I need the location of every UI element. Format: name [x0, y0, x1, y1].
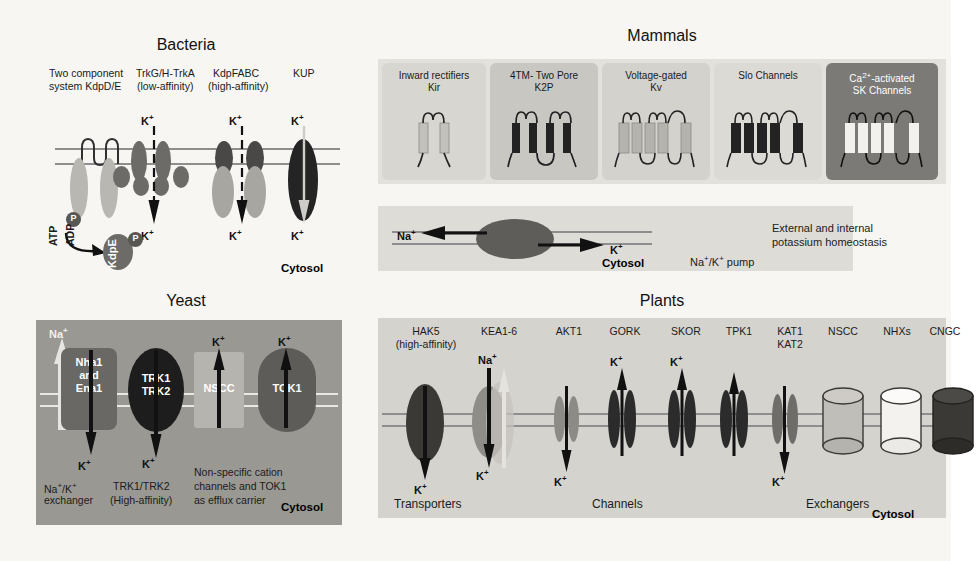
label-trk-1: TrkG/H-TrkA [136, 67, 195, 80]
mammal-box-inward-rectifiers[interactable]: Inward rectifiersKir [382, 63, 486, 180]
mammal-box-slo-channels[interactable]: Slo Channels [714, 63, 822, 180]
plant-header-kat: KAT1KAT2 [764, 325, 816, 350]
mammal-box-voltage-gated[interactable]: Voltage-gatedKv [602, 63, 710, 180]
plant-header-nscc: NSCC [816, 325, 870, 338]
caption-trk-1: TRK1/TRK2 [113, 480, 170, 493]
arrow-k-influx-kup [298, 126, 310, 226]
panel-mammals: Mammals Inward rectifiersKir 4TM- Two Po… [372, 0, 951, 290]
ion-k-tok1: K+ [278, 334, 291, 348]
label-homeostasis-2: potassium homeostasis [772, 236, 887, 249]
plant-header-kea: KEA1-6 [464, 325, 534, 338]
trka-subunit-a [113, 166, 130, 188]
label-two-component-1: Two component [49, 67, 123, 80]
label-na-k-pump: Na+/K+ pump [690, 254, 754, 268]
arrow-k-efflux-tpk1 [728, 372, 740, 456]
ion-na-pump: Na+ [397, 228, 416, 242]
arrow-k-influx-hak5 [419, 386, 431, 480]
arrow-na-efflux-kea [498, 368, 510, 468]
plant-protein-cngc [928, 386, 978, 458]
plant-protein-nhxs [876, 386, 926, 458]
kir-topology-icon [410, 107, 460, 169]
plant-header-skor: SKOR [658, 325, 714, 338]
ion-k-top-1: K+ [141, 113, 154, 127]
page-title-bacteria: Bacteria [86, 36, 286, 54]
label-kdp-1: KdpFABC [213, 67, 259, 80]
page-title-plants: Plants [562, 292, 762, 310]
arrow-k-influx-trk [148, 126, 160, 226]
mammal-box-label-kv: Voltage-gatedKv [602, 70, 710, 94]
caption-exchanger-1: Na+/K+ [44, 480, 77, 495]
label-two-component-2: system KdpD/E [49, 80, 121, 93]
arrow-k-influx-pump [538, 238, 604, 252]
page-title-yeast: Yeast [86, 292, 286, 310]
ion-k-top-2: K+ [229, 113, 242, 127]
plant-header-cngc: CNGC [918, 325, 972, 338]
ion-k-akt1: K+ [554, 474, 567, 488]
kdpfabc-cyto-1 [212, 166, 234, 218]
plant-group-transporters: Transporters [394, 498, 462, 511]
page-title-mammals: Mammals [562, 27, 762, 45]
plant-header-nhxs: NHXs [870, 325, 924, 338]
ion-k-top-3: K+ [291, 113, 304, 127]
arrow-k-efflux-gork [616, 368, 628, 456]
kv-topology-icon [615, 107, 699, 169]
mammal-box-label-kir: Inward rectifiersKir [382, 70, 486, 94]
cytosol-label-mammals: Cytosol [602, 257, 644, 269]
panel-plants: Plants HAK5(high-affinity) KEA1-6 AKT1 G… [372, 290, 951, 561]
plant-protein-nscc [818, 386, 868, 458]
k2p-topology-icon [506, 107, 584, 169]
label-atp: ATP [47, 226, 59, 246]
arrow-k-influx-kat [779, 386, 791, 474]
plant-header-akt1: AKT1 [540, 325, 598, 338]
kdpd-protein-left [70, 158, 88, 218]
label-kup: KUP [293, 67, 315, 80]
ion-k-skor: K+ [670, 354, 683, 368]
mammal-box-two-pore[interactable]: 4TM- Two PoreK2P [490, 63, 598, 180]
sk-topology-icon [841, 107, 927, 169]
ion-k-nscc: K+ [212, 334, 225, 348]
label-kdp-2: (high-affinity) [208, 80, 269, 93]
ion-na-kea: Na+ [478, 352, 497, 366]
phosphate-label-1: P [66, 213, 81, 223]
kdpd-sensor-loop [78, 136, 124, 166]
arrow-k-influx-akt1 [561, 386, 573, 472]
trka-subunit-b [133, 176, 149, 196]
caption-exchanger-2: exchanger [44, 494, 93, 507]
arrow-k-efflux-skor [676, 368, 688, 456]
cytosol-label-bacteria: Cytosol [281, 262, 323, 274]
plant-header-gork: GORK [596, 325, 654, 338]
plant-header-tpk1: TPK1 [712, 325, 766, 338]
ion-k-hak5: K+ [414, 482, 427, 496]
ion-k-pump: K+ [610, 242, 623, 256]
caption-trk-2: (High-affinity) [110, 494, 172, 507]
arrow-k-influx-nha1 [85, 350, 97, 455]
arrow-na-efflux [421, 226, 487, 240]
arrow-k-efflux-tok1 [280, 348, 292, 428]
kdpe-protein-right [100, 158, 118, 218]
arrow-k-influx-kdp [236, 126, 248, 226]
caption-nscc-3: as efflux carrier [194, 494, 266, 507]
ion-k-kea: K+ [476, 468, 489, 482]
label-homeostasis-1: External and internal [772, 222, 873, 235]
plant-group-exchangers: Exchangers [806, 498, 869, 511]
cytosol-label-plants: Cytosol [872, 508, 914, 520]
phosphate-label-2: P [128, 233, 143, 243]
ion-k-bottom-trk: K+ [142, 456, 155, 470]
ion-k-gork: K+ [610, 354, 623, 368]
cytosol-label-yeast: Cytosol [281, 501, 323, 513]
trk-subunit-1 [131, 141, 147, 181]
trka-subunit-d [173, 166, 189, 188]
ion-k-kat: K+ [772, 474, 785, 488]
ion-k-bottom-2: K+ [229, 228, 242, 242]
mammal-box-sk-channels[interactable]: Ca2+-activatedSK Channels [826, 63, 938, 180]
arrow-k-efflux-nscc [213, 348, 225, 428]
label-trk-2: (low-affinity) [137, 80, 193, 93]
mammal-box-label-k2p: 4TM- Two PoreK2P [490, 70, 598, 94]
ion-k-bottom-3: K+ [291, 228, 304, 242]
panel-yeast: Yeast Na+ Nha1 and Ena1 TRK1 TRK2 NSCC T… [0, 290, 372, 561]
label-kdpe: KdpE [106, 239, 118, 268]
mammal-box-label-slo: Slo Channels [714, 70, 822, 82]
label-adp: ADP [64, 224, 76, 246]
slo-topology-icon [727, 107, 811, 169]
panel-bacteria: Bacteria Two component system KdpD/E Trk… [0, 0, 372, 290]
